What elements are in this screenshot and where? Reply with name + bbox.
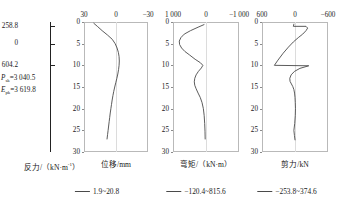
y-axis-tick-label: 30 xyxy=(251,148,258,156)
y-axis-tick xyxy=(260,152,263,153)
pile-tick xyxy=(50,26,55,27)
y-axis-tick-label: 5 xyxy=(76,40,80,48)
x-axis-tick-label: 0 xyxy=(114,11,118,20)
legend-label: −253.8~374.6 xyxy=(275,187,316,196)
series-svg xyxy=(84,22,148,152)
data-series-bending-moment xyxy=(179,25,205,139)
x-axis-caption-bending-moment: 弯矩/（kN·m） xyxy=(180,160,232,170)
x-axis-tick-label: 0 xyxy=(293,11,297,20)
pile-analysis-figure: 258.80604.2 Psk=3 040.5 Epk=3 619.8 反力/（… xyxy=(0,0,337,209)
y-axis-tick-label: 25 xyxy=(251,126,258,134)
y-axis-tick xyxy=(82,152,85,153)
y-axis-tick-label: 25 xyxy=(162,126,169,134)
y-axis-tick-label: 25 xyxy=(73,126,80,134)
legend-shear-force: −253.8~374.6 xyxy=(257,187,316,196)
y-axis-tick-label: 5 xyxy=(254,40,258,48)
pile-label: 258.8 xyxy=(2,22,18,30)
pile-schematic: 258.80604.2 Psk=3 040.5 Epk=3 619.8 xyxy=(0,0,58,175)
y-axis-tick-label: 20 xyxy=(73,105,80,113)
pile-property-p-value: =3 040.5 xyxy=(10,74,36,82)
x-axis-tick-label: 0 xyxy=(204,11,208,20)
legend-label: −120.4~815.6 xyxy=(184,187,225,196)
y-axis-tick-label: 20 xyxy=(162,105,169,113)
pile-property-e: Epk=3 619.8 xyxy=(1,86,36,98)
chart-panel-shear-force: 051015202530 xyxy=(262,22,328,152)
reaction-axis-caption-tail: ） xyxy=(72,163,80,172)
y-axis-tick-label: 15 xyxy=(73,83,80,91)
y-axis-tick-label: 15 xyxy=(162,83,169,91)
y-axis-tick-label: 10 xyxy=(251,61,258,69)
y-axis-tick-label: 10 xyxy=(73,61,80,69)
y-axis-tick-label: 30 xyxy=(73,148,80,156)
y-axis-tick-label: 15 xyxy=(251,83,258,91)
x-axis-tick-label: 600 xyxy=(257,11,268,20)
x-axis-tick-label: −1 000 xyxy=(229,11,249,20)
data-series-displacement xyxy=(94,23,120,139)
x-axis-tick-label: 30 xyxy=(80,11,87,20)
legend-label: 1.9~20.8 xyxy=(93,187,119,196)
x-axis-tick-label: 1 000 xyxy=(165,11,181,20)
pile-shaft-line xyxy=(50,22,51,152)
x-axis-caption-shear-force: 剪力/kN xyxy=(281,160,308,170)
y-axis-tick xyxy=(171,152,174,153)
y-axis-tick-label: 30 xyxy=(162,148,169,156)
chart-panel-reaction-displacement: 051015202530 xyxy=(84,22,148,152)
y-axis-tick-label: 10 xyxy=(162,61,169,69)
series-svg xyxy=(262,22,328,152)
x-axis-tick-label: −600 xyxy=(321,11,336,20)
pile-tick xyxy=(50,65,55,66)
pile-property-p: Psk=3 040.5 xyxy=(1,74,36,86)
series-svg xyxy=(173,22,239,152)
pile-label: 0 xyxy=(14,39,18,47)
pile-property-e-value: =3 619.8 xyxy=(10,86,36,94)
legend-line-swatch xyxy=(257,191,272,192)
pile-properties: Psk=3 040.5 Epk=3 619.8 xyxy=(1,74,36,97)
pile-tick xyxy=(50,44,55,45)
y-axis-tick-label: 5 xyxy=(165,40,169,48)
x-axis-caption-reaction-displacement: 位移/mm xyxy=(101,160,131,170)
data-series-shear-force xyxy=(274,24,308,140)
legend-line-swatch xyxy=(166,191,181,192)
y-axis-tick-label: 20 xyxy=(251,105,258,113)
legend-bending-moment: −120.4~815.6 xyxy=(166,187,225,196)
legend-reaction-displacement: 1.9~20.8 xyxy=(75,187,119,196)
x-axis-tick-label: −30 xyxy=(142,11,153,20)
legend-line-swatch xyxy=(75,191,90,192)
reaction-axis-caption: 反力/（kN·m-1） xyxy=(24,160,80,173)
chart-panel-bending-moment: 051015202530 xyxy=(173,22,239,152)
reaction-axis-caption-head: 反力/（kN·m xyxy=(24,163,68,172)
pile-label: 604.2 xyxy=(2,61,18,69)
